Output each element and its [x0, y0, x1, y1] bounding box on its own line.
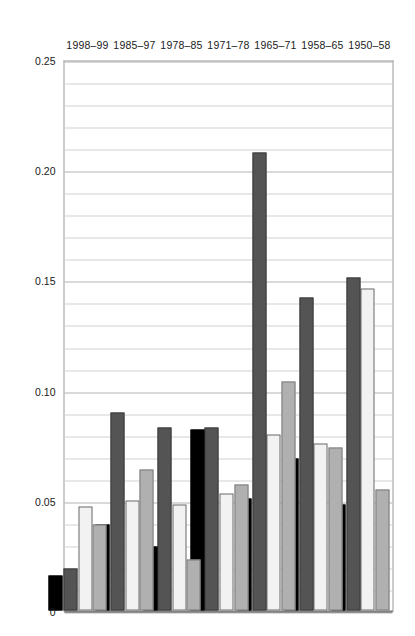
bar-germany — [360, 288, 374, 610]
bar-world — [92, 524, 106, 610]
chart-figure: 00.050.100.150.200.25 1950–581958–651965… — [0, 0, 415, 636]
bar-japan — [157, 427, 171, 610]
bar-group — [298, 61, 345, 610]
plot-area-wrapper — [63, 60, 393, 611]
bar-group — [156, 61, 203, 610]
tick-label: 0 — [49, 605, 55, 617]
category-label: 1965–71 — [254, 38, 296, 50]
bar-world — [375, 489, 389, 610]
category-label: 1978–85 — [160, 38, 202, 50]
bar-group — [203, 61, 250, 610]
tick-label: 0.25 — [35, 54, 55, 66]
category-label: 1958–65 — [301, 38, 343, 50]
bar-world — [234, 484, 248, 610]
bar-germany — [266, 434, 280, 610]
tick-label: 0.20 — [35, 164, 55, 176]
bar-group — [345, 61, 392, 610]
bar-japan — [204, 427, 218, 610]
tick-label: 0.05 — [35, 495, 55, 507]
bar-germany — [172, 504, 186, 610]
bar-world — [328, 447, 342, 610]
bar-japan — [299, 297, 313, 610]
bar-group — [109, 61, 156, 610]
bar-world — [139, 469, 153, 610]
bar-japan — [110, 412, 124, 610]
bar-japan — [252, 152, 266, 610]
tick-label: 0.15 — [35, 274, 55, 286]
bar-germany — [125, 500, 139, 610]
bar-germany — [313, 443, 327, 611]
bar-germany — [78, 506, 92, 610]
chart-canvas: 00.050.100.150.200.25 1950–581958–651965… — [0, 0, 415, 636]
category-label: 1971–78 — [207, 38, 249, 50]
category-label: 1950–58 — [348, 38, 390, 50]
bar-group — [251, 61, 298, 610]
bar-japan — [346, 277, 360, 610]
bar-germany — [219, 493, 233, 610]
tick-label: 0.10 — [35, 385, 55, 397]
bar-group — [62, 61, 109, 610]
bar-world — [186, 559, 200, 610]
bar-japan — [63, 568, 77, 610]
bar-world — [281, 381, 295, 610]
zero-axis-line — [64, 611, 392, 612]
category-label: 1985–97 — [113, 38, 155, 50]
plot-area — [63, 60, 393, 611]
category-label: 1998–99 — [65, 38, 107, 50]
